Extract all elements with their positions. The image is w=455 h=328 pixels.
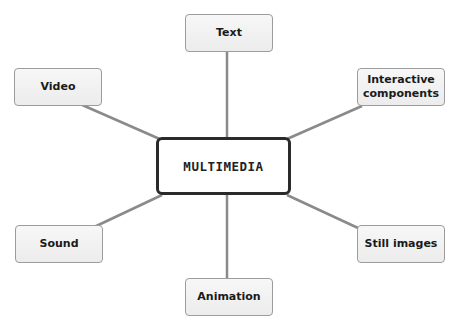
connector-sound <box>92 195 162 228</box>
node-animation-label: Animation <box>197 290 260 304</box>
node-video-label: Video <box>41 80 76 94</box>
center-node-label: MULTIMEDIA <box>183 159 263 174</box>
node-sound-label: Sound <box>39 237 78 251</box>
node-text: Text <box>185 14 273 52</box>
node-interactive-components: Interactive components <box>357 68 445 106</box>
node-sound: Sound <box>15 225 103 263</box>
connector-still-images <box>287 195 358 228</box>
node-video: Video <box>14 68 102 106</box>
node-still-images-label: Still images <box>365 237 438 251</box>
node-animation: Animation <box>185 278 273 316</box>
node-text-label: Text <box>216 26 242 40</box>
center-node-multimedia: MULTIMEDIA <box>156 137 291 195</box>
connector-interactive <box>287 106 362 139</box>
connector-video <box>80 104 162 140</box>
node-still-images: Still images <box>357 225 445 263</box>
node-interactive-label: Interactive components <box>361 73 441 101</box>
